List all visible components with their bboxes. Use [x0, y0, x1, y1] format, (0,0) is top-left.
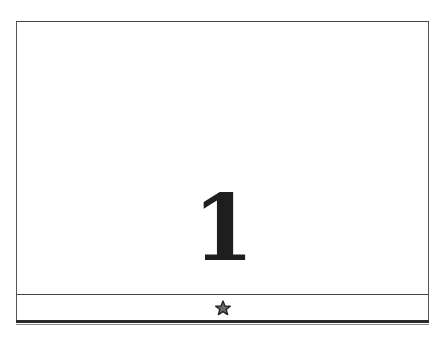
card-footer — [17, 295, 428, 321]
bottom-rule-thin — [16, 324, 429, 325]
card-number: 1 — [27, 182, 417, 274]
star-icon — [215, 300, 231, 316]
bottom-rule-thick — [16, 320, 429, 323]
card: 1 — [16, 21, 429, 321]
